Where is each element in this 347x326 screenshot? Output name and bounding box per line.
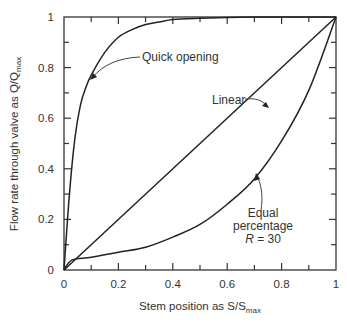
x-tick-label: 0.6: [219, 278, 235, 290]
x-tick-label: 0: [61, 278, 67, 290]
label-percentage: percentage: [233, 219, 293, 233]
annotation-linear: Linear: [212, 93, 269, 108]
x-tick-label: 0.2: [110, 278, 126, 290]
x-tick-label: 0.4: [165, 278, 182, 290]
y-tick-label: 0.8: [38, 62, 54, 74]
annotation-quick-opening: Quick opening: [90, 50, 219, 80]
valve-characteristics-chart: 00.20.40.60.8100.20.40.60.81 Quick openi…: [0, 0, 347, 326]
y-tick-label: 0.4: [38, 163, 55, 175]
y-tick-label: 0: [48, 264, 54, 276]
y-tick-label: 0.6: [38, 112, 54, 124]
arrow-line: [257, 176, 262, 210]
x-tick-label: 1: [333, 278, 339, 290]
x-tick-label: 0.8: [274, 278, 290, 290]
label-r-value: R = 30: [245, 232, 281, 246]
label-linear: Linear: [212, 93, 245, 107]
annotation-equal-percentage: Equal percentage R = 30: [233, 173, 293, 246]
y-tick-label: 1: [48, 11, 54, 23]
label-equal: Equal: [248, 206, 279, 220]
y-tick-label: 0.2: [38, 213, 54, 225]
y-axis-title: Flow rate through valve as Q/Qmax: [8, 57, 23, 231]
label-quick-opening: Quick opening: [142, 50, 219, 64]
x-axis-title: Stem position as S/Smax: [139, 300, 261, 315]
